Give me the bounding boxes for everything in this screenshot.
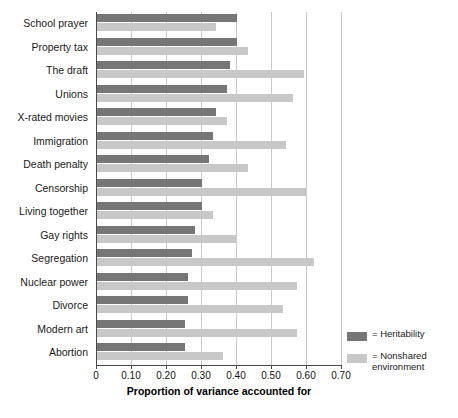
bar-heritability <box>97 108 216 116</box>
bar-nonshared <box>97 329 297 337</box>
bar-heritability <box>97 296 188 304</box>
tick-mark <box>131 365 132 369</box>
chart-row: Censorship <box>0 177 458 199</box>
bar-heritability <box>97 85 227 93</box>
bar-nonshared <box>97 305 283 313</box>
tick-mark <box>306 365 307 369</box>
bar-heritability <box>97 202 202 210</box>
bar-heritability <box>97 249 192 257</box>
x-tick-label: 0.30 <box>181 370 221 381</box>
legend-item-heritability: = Heritability <box>347 330 455 352</box>
legend-swatch-nonshared <box>347 354 367 363</box>
bar-nonshared <box>97 47 248 55</box>
bar-chart: School prayerProperty taxThe draftUnions… <box>0 0 458 418</box>
bar-heritability <box>97 179 202 187</box>
chart-row: The draft <box>0 59 458 81</box>
bar-nonshared <box>97 188 307 196</box>
bar-nonshared <box>97 70 304 78</box>
chart-row: Gay rights <box>0 224 458 246</box>
legend-label-nonshared: = Nonshared environment <box>372 350 427 372</box>
category-label: The draft <box>0 59 88 81</box>
x-tick-label: 0.20 <box>146 370 186 381</box>
chart-row: Divorce <box>0 294 458 316</box>
chart-row: Unions <box>0 83 458 105</box>
category-label: Death penalty <box>0 153 88 175</box>
bar-heritability <box>97 14 237 22</box>
tick-mark <box>201 365 202 369</box>
bar-nonshared <box>97 23 216 31</box>
bar-heritability <box>97 273 188 281</box>
category-label: Segregation <box>0 247 88 269</box>
tick-mark <box>341 365 342 369</box>
chart-row: Segregation <box>0 247 458 269</box>
bar-heritability <box>97 155 209 163</box>
x-tick-label: 0.60 <box>286 370 326 381</box>
chart-row: School prayer <box>0 12 458 34</box>
tick-mark <box>271 365 272 369</box>
chart-row: Nuclear power <box>0 271 458 293</box>
legend-label-heritability: = Heritability <box>372 328 425 339</box>
category-label: Censorship <box>0 177 88 199</box>
bar-nonshared <box>97 94 293 102</box>
legend-swatch-heritability <box>347 332 367 341</box>
category-label: Modern art <box>0 318 88 340</box>
x-tick-label: 0.10 <box>111 370 151 381</box>
bar-heritability <box>97 132 213 140</box>
category-label: School prayer <box>0 12 88 34</box>
category-label: Nuclear power <box>0 271 88 293</box>
bar-nonshared <box>97 235 237 243</box>
category-label: Divorce <box>0 294 88 316</box>
category-label: Living together <box>0 200 88 222</box>
chart-row: Living together <box>0 200 458 222</box>
bar-nonshared <box>97 282 297 290</box>
legend: = Heritability = Nonshared environment <box>347 330 455 374</box>
x-tick-label: 0.50 <box>251 370 291 381</box>
bar-heritability <box>97 38 237 46</box>
x-tick-label: 0.40 <box>216 370 256 381</box>
bar-nonshared <box>97 141 286 149</box>
category-label: Gay rights <box>0 224 88 246</box>
category-label: Property tax <box>0 36 88 58</box>
category-label: Abortion <box>0 341 88 363</box>
category-label: Immigration <box>0 130 88 152</box>
x-axis-label: Proportion of variance accounted for <box>96 385 342 397</box>
bar-nonshared <box>97 352 223 360</box>
chart-row: Immigration <box>0 130 458 152</box>
chart-row: Property tax <box>0 36 458 58</box>
chart-row: X-rated movies <box>0 106 458 128</box>
category-label: Unions <box>0 83 88 105</box>
bar-nonshared <box>97 258 314 266</box>
tick-mark <box>166 365 167 369</box>
bar-heritability <box>97 61 230 69</box>
tick-mark <box>236 365 237 369</box>
tick-mark <box>96 365 97 369</box>
bar-heritability <box>97 343 185 351</box>
legend-item-nonshared: = Nonshared environment <box>347 352 455 374</box>
bar-nonshared <box>97 211 213 219</box>
category-label: X-rated movies <box>0 106 88 128</box>
bar-nonshared <box>97 117 227 125</box>
bar-nonshared <box>97 164 248 172</box>
x-tick-label: 0 <box>76 370 116 381</box>
chart-row: Death penalty <box>0 153 458 175</box>
bar-heritability <box>97 320 185 328</box>
bar-heritability <box>97 226 195 234</box>
